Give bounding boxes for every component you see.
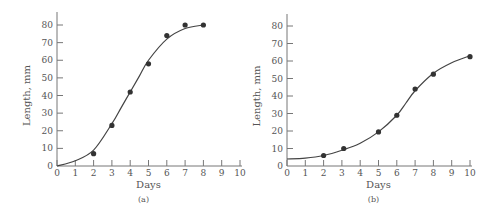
chart-canvas: 01234567891001020304050607080DaysLength,… (0, 0, 495, 214)
data-point (341, 146, 346, 151)
panel-caption: (b) (368, 195, 379, 204)
data-point (394, 113, 399, 118)
y-tick-label: 40 (42, 91, 54, 101)
data-point (164, 33, 169, 38)
fit-curve (57, 25, 203, 166)
data-point (467, 54, 472, 59)
x-axis-label: Days (136, 179, 161, 190)
x-tick-label: 1 (302, 168, 308, 178)
x-tick-label: 7 (182, 168, 188, 178)
y-tick-label: 20 (272, 126, 284, 136)
y-axis-label: Length, mm (251, 65, 262, 127)
data-point (431, 72, 436, 77)
y-tick-label: 10 (272, 144, 284, 154)
data-point (376, 129, 381, 134)
y-tick-label: 50 (272, 74, 284, 84)
x-tick-label: 3 (339, 168, 345, 178)
y-tick-label: 60 (272, 56, 284, 66)
x-tick-label: 7 (412, 168, 418, 178)
x-tick-label: 10 (464, 168, 476, 178)
panel-caption: (a) (138, 195, 149, 204)
y-tick-label: 40 (272, 91, 284, 101)
x-tick-label: 0 (54, 168, 60, 178)
data-point (91, 151, 96, 156)
x-tick-label: 8 (201, 168, 207, 178)
x-tick-label: 5 (146, 168, 152, 178)
y-tick-label: 0 (277, 161, 283, 171)
y-tick-label: 80 (42, 20, 54, 30)
y-tick-label: 10 (42, 143, 54, 153)
x-tick-label: 2 (91, 168, 97, 178)
x-tick-label: 6 (164, 168, 170, 178)
y-axis-label: Length, mm (21, 64, 32, 126)
data-point (128, 89, 133, 94)
x-tick-label: 1 (72, 168, 78, 178)
data-point (201, 22, 206, 27)
data-point (413, 86, 418, 91)
data-point (183, 22, 188, 27)
x-tick-label: 9 (219, 168, 225, 178)
x-tick-label: 3 (109, 168, 115, 178)
y-tick-label: 60 (42, 55, 54, 65)
x-tick-label: 6 (394, 168, 400, 178)
x-tick-label: 4 (357, 168, 363, 178)
x-tick-label: 10 (234, 168, 246, 178)
x-tick-label: 0 (284, 168, 290, 178)
chart-a: 01234567891001020304050607080DaysLength,… (21, 12, 246, 204)
x-tick-label: 2 (321, 168, 327, 178)
chart-b: 01234567891001020304050607080DaysLength,… (251, 14, 476, 204)
fit-curve (287, 56, 470, 159)
y-tick-label: 30 (42, 108, 54, 118)
x-tick-label: 9 (449, 168, 455, 178)
data-point (109, 123, 114, 128)
y-tick-label: 70 (42, 38, 54, 48)
x-tick-label: 5 (376, 168, 382, 178)
y-tick-label: 30 (272, 109, 284, 119)
y-tick-label: 80 (272, 21, 284, 31)
x-tick-label: 4 (127, 168, 133, 178)
x-tick-label: 8 (431, 168, 437, 178)
y-tick-label: 50 (42, 73, 54, 83)
y-tick-label: 70 (272, 39, 284, 49)
x-axis-label: Days (366, 179, 391, 190)
data-point (321, 153, 326, 158)
y-tick-label: 0 (47, 161, 53, 171)
data-point (146, 61, 151, 66)
y-tick-label: 20 (42, 126, 54, 136)
